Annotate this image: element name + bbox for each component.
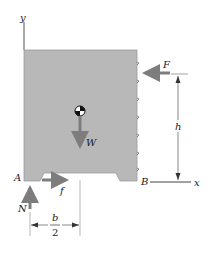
point-B-label: B bbox=[140, 176, 148, 187]
free-body-diagram: y W F h x A B N f b 2 bbox=[0, 0, 214, 255]
x-axis-label: x bbox=[194, 177, 200, 188]
point-A-label: A bbox=[13, 172, 21, 183]
b2-numerator: b bbox=[52, 212, 58, 223]
b2-denominator: 2 bbox=[52, 227, 58, 238]
normal-force-label: N bbox=[17, 203, 28, 214]
weight-label: W bbox=[86, 137, 97, 148]
h-label: h bbox=[175, 121, 181, 132]
force-F-label: F bbox=[162, 59, 171, 70]
y-axis-label: y bbox=[19, 12, 26, 23]
center-of-gravity-icon bbox=[75, 106, 85, 116]
friction-label: f bbox=[59, 185, 66, 196]
